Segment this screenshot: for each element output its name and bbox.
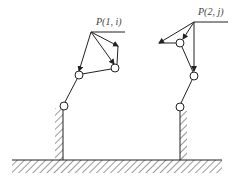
- label-p2: P(2, j): [198, 6, 224, 17]
- right-linkage: [159, 22, 228, 111]
- left-linkage: [60, 32, 125, 110]
- label-p1: P(1, i): [96, 16, 122, 27]
- right-wall: [180, 111, 187, 160]
- mechanism-drawing: [0, 0, 238, 188]
- left-wall: [55, 108, 63, 160]
- diagram-canvas: P(1, i) P(2, j): [0, 0, 238, 188]
- ground: [12, 160, 222, 173]
